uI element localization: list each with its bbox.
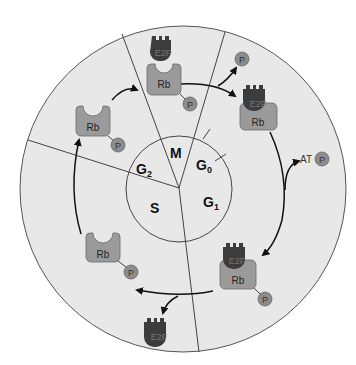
svg-text:Rb: Rb: [158, 79, 171, 90]
phosphate-s: P: [124, 265, 138, 279]
svg-text:E2F: E2F: [229, 256, 246, 266]
svg-text:P: P: [319, 155, 325, 165]
e2f-bound-g1: E2F: [223, 243, 246, 269]
svg-text:P: P: [187, 100, 193, 110]
e2f-free-bottom: E2F: [144, 318, 168, 347]
svg-text:E2F: E2F: [151, 332, 168, 342]
svg-text:Rb: Rb: [232, 275, 245, 286]
phosphate-g1: P: [258, 292, 272, 306]
e2f-free-top: E2F: [150, 36, 172, 61]
svg-text:P: P: [128, 268, 134, 278]
svg-text:P: P: [239, 55, 245, 65]
svg-text:Rb: Rb: [252, 117, 265, 128]
phase-label-m: M: [170, 145, 182, 161]
svg-text:P: P: [115, 141, 121, 151]
phosphate-top: P: [183, 97, 197, 111]
phosphate-g2: P: [111, 138, 125, 152]
svg-text:AT: AT: [300, 154, 312, 165]
outer-cycle-disc: [20, 26, 346, 352]
svg-text:Rb: Rb: [97, 249, 110, 260]
svg-text:Rb: Rb: [87, 122, 100, 133]
svg-text:P: P: [262, 295, 268, 305]
phase-label-s: S: [150, 200, 159, 216]
svg-text:E2F: E2F: [250, 99, 267, 109]
svg-text:E2F: E2F: [155, 48, 172, 58]
cell-cycle-diagram: M G0 G2 G1 S E2F Rb P Rb P P Rb: [0, 0, 356, 365]
phosphate-released: P: [235, 52, 249, 66]
